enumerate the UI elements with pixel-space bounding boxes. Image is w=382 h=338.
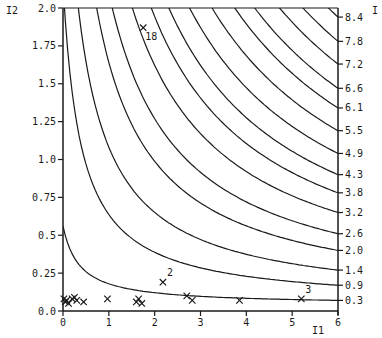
data-point-marker: [135, 296, 141, 302]
contour-line: [63, 0, 338, 250]
right-axis-title: I: [372, 5, 378, 16]
contour-level-label: 6.1: [345, 102, 363, 113]
contour-line: [63, 0, 338, 234]
contour-level-label: 8.4: [345, 12, 363, 23]
y-axis: 0.00.250.50.751.01.251.51.752.0: [32, 3, 63, 317]
y-axis-title: I2: [6, 5, 18, 16]
data-point-marker: [189, 297, 195, 303]
data-point-marker: 18: [140, 24, 157, 41]
contour-line: [63, 0, 338, 108]
contour-level-label: 4.3: [345, 169, 363, 180]
y-tick-label: 2.0: [38, 3, 56, 14]
x-tick-label: 1: [106, 317, 112, 328]
x-axis: 0123456: [60, 311, 341, 328]
x-tick-label: 3: [197, 317, 203, 328]
contour-level-label: 2.0: [345, 245, 363, 256]
point-label: 2: [167, 267, 173, 278]
y-tick-label: 1.75: [32, 40, 56, 51]
point-label: 18: [145, 31, 157, 42]
y-tick-label: 0.0: [38, 306, 56, 317]
point-label: 3: [305, 284, 311, 295]
x-tick-label: 4: [243, 317, 249, 328]
contour-line: [63, 226, 338, 300]
right-axis-contour-labels: 8.47.87.26.66.15.54.94.33.83.22.62.01.40…: [338, 12, 363, 306]
contour-level-label: 3.8: [345, 187, 363, 198]
y-tick-label: 1.0: [38, 154, 56, 165]
contour-level-label: 6.6: [345, 83, 363, 94]
x-tick-label: 5: [289, 317, 295, 328]
contour-level-label: 3.2: [345, 207, 363, 218]
y-tick-label: 0.75: [32, 192, 56, 203]
contour-line: [63, 0, 338, 41]
data-point-marker: [104, 296, 110, 302]
x-tick-label: 6: [335, 317, 341, 328]
y-tick-label: 0.25: [32, 268, 56, 279]
contour-scatter-chart: 0.00.250.50.751.01.251.51.752.0 0123456 …: [0, 0, 382, 338]
contour-lines: [63, 0, 338, 300]
y-tick-label: 0.5: [38, 230, 56, 241]
y-tick-label: 1.25: [32, 116, 56, 127]
data-point-marker: [139, 300, 145, 306]
x-axis-title: I1: [312, 325, 324, 336]
contour-level-label: 1.4: [345, 265, 363, 276]
contour-level-label: 7.8: [345, 36, 363, 47]
x-tick-label: 0: [60, 317, 66, 328]
contour-level-label: 2.6: [345, 228, 363, 239]
contour-level-label: 4.9: [345, 148, 363, 159]
data-point-marker: [80, 299, 86, 305]
contour-level-label: 0.9: [345, 280, 363, 291]
contour-level-label: 0.3: [345, 295, 363, 306]
data-point-marker: 2: [160, 267, 173, 285]
contour-level-label: 5.5: [345, 125, 363, 136]
contour-level-label: 7.2: [345, 59, 363, 70]
contour-line: [63, 0, 338, 193]
x-tick-label: 2: [152, 317, 158, 328]
contour-line: [63, 0, 338, 270]
contour-line: [63, 0, 338, 213]
y-tick-label: 1.5: [38, 78, 56, 89]
